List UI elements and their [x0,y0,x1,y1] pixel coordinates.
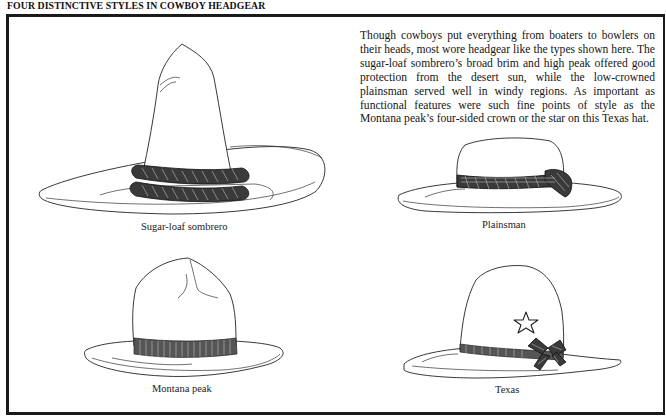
texas-illustration [398,262,628,382]
caption-montana-peak: Montana peak [152,383,212,394]
texas-crown-icon [460,266,564,358]
caption-sugar-loaf-sombrero: Sugar-loaf sombrero [141,221,227,232]
sugar-loaf-sombrero-illustration [30,40,330,215]
ribbed-band-icon [134,338,237,357]
montana-peak-illustration [82,254,292,379]
montana-crown-icon [133,258,236,346]
sombrero-crown-icon [142,44,232,176]
caption-texas: Texas [495,384,519,395]
description-paragraph: Though cowboys put everything from boate… [360,29,655,126]
plainsman-illustration [395,135,625,215]
caption-plainsman: Plainsman [482,219,526,230]
page-title: FOUR DISTINCTIVE STYLES IN COWBOY HEADGE… [7,0,265,11]
